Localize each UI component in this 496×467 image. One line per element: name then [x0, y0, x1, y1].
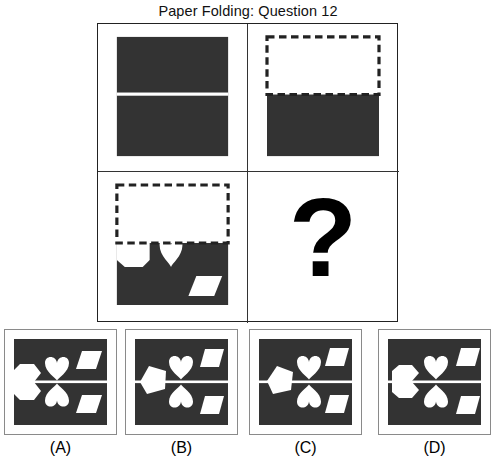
- answer-paper: [259, 339, 352, 425]
- answer-label-c: (C): [249, 437, 362, 459]
- answer-d-graphic: [388, 339, 481, 425]
- folded-sheet-graphic: [248, 24, 399, 171]
- answer-box-a[interactable]: [4, 329, 117, 435]
- answer-label-a: (A): [4, 437, 117, 459]
- answer-box-c[interactable]: [249, 329, 362, 435]
- answer-option-a[interactable]: (A): [4, 329, 117, 467]
- fold-crease-line: [117, 93, 228, 96]
- punched-sheet-graphic: [98, 172, 247, 323]
- puzzle-step-4-unknown: ?: [248, 172, 399, 323]
- puzzle-step-2-folded-sheet: [248, 24, 399, 172]
- answer-label-d: (D): [378, 437, 491, 459]
- answer-options: (A): [0, 329, 496, 467]
- answer-box-d[interactable]: [378, 329, 491, 435]
- unfolded-sheet-graphic: [98, 24, 247, 171]
- answer-box-b[interactable]: [125, 329, 238, 435]
- answer-b-graphic: [135, 339, 228, 425]
- answer-figure-b: [135, 339, 228, 425]
- answer-label-b: (B): [125, 437, 238, 459]
- answer-paper: [388, 339, 481, 425]
- puzzle-step-1-unfolded-sheet: [98, 24, 248, 172]
- paper-bottom-half: [267, 95, 379, 157]
- answer-figure-c: [259, 339, 352, 425]
- folded-half-dashed-outline: [267, 37, 379, 95]
- paper-sheet: [117, 37, 228, 156]
- answer-option-d[interactable]: (D): [378, 329, 491, 467]
- puzzle-grid: ?: [97, 23, 398, 322]
- answer-a-graphic: [14, 339, 107, 425]
- answer-option-b[interactable]: (B): [125, 329, 238, 467]
- answer-c-graphic: [259, 339, 352, 425]
- question-mark-graphic: ?: [248, 172, 399, 323]
- question-mark-glyph: ?: [289, 175, 357, 300]
- paper-bottom-half-punched: [98, 172, 247, 323]
- answer-figure-d: [388, 339, 481, 425]
- answer-paper: [135, 339, 228, 425]
- puzzle-step-3-punched-sheet: [98, 172, 248, 323]
- answer-paper: [14, 339, 107, 425]
- page-title: Paper Folding: Question 12: [0, 2, 496, 20]
- answer-figure-a: [14, 339, 107, 425]
- answer-option-c[interactable]: (C): [249, 329, 362, 467]
